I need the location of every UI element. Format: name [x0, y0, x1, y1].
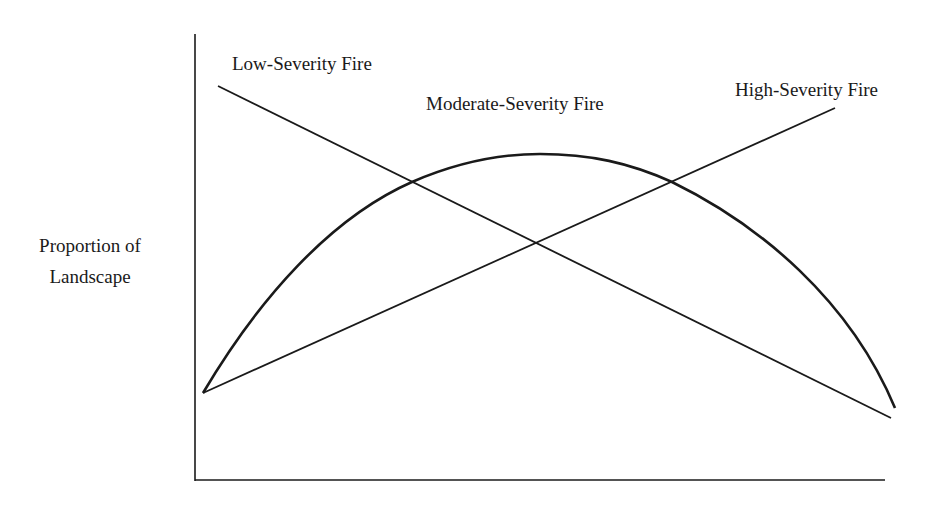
moderate-severity-label: Moderate-Severity Fire: [426, 94, 604, 113]
y-axis-label-line2: Landscape: [10, 261, 170, 292]
y-axis-label-line1: Proportion of: [10, 230, 170, 261]
low-severity-line: [218, 86, 891, 418]
high-severity-label: High-Severity Fire: [735, 80, 878, 99]
low-severity-label: Low-Severity Fire: [232, 54, 372, 73]
y-axis-label: Proportion of Landscape: [10, 230, 170, 292]
high-severity-line: [203, 108, 835, 393]
moderate-severity-curve: [203, 154, 895, 408]
